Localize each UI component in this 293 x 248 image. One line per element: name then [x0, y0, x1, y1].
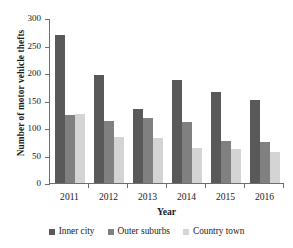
bar — [221, 141, 231, 183]
bar-group — [167, 18, 206, 183]
legend-item: Inner city — [49, 226, 95, 237]
bar — [114, 137, 124, 183]
bar — [55, 35, 65, 184]
x-tick-label: 2014 — [167, 191, 206, 203]
x-tick — [128, 184, 167, 189]
bar-group — [128, 18, 167, 183]
x-tick — [89, 184, 128, 189]
x-tick — [206, 184, 245, 189]
y-tick-label: 0 — [13, 178, 41, 189]
bar-chart: Number of motor vehicle thefts 300250200… — [0, 0, 293, 248]
x-axis-ticks — [50, 184, 284, 189]
bar — [260, 142, 270, 183]
x-axis-title: Year — [49, 206, 284, 217]
y-tick-label: 200 — [13, 68, 41, 79]
y-tick-label: 50 — [13, 151, 41, 162]
bar — [104, 121, 114, 183]
legend-swatch-icon — [108, 229, 114, 235]
bar — [65, 115, 75, 183]
y-tick-label: 150 — [13, 96, 41, 107]
bar-group — [206, 18, 245, 183]
x-tick-label: 2011 — [50, 191, 89, 203]
chart-legend: Inner cityOuter suburbsCountry town — [0, 226, 293, 237]
bar — [153, 138, 163, 183]
bar — [143, 118, 153, 183]
y-tick-label: 250 — [13, 41, 41, 52]
bar — [172, 80, 182, 183]
bar-group — [50, 18, 89, 183]
bar — [94, 75, 104, 183]
legend-label: Outer suburbs — [118, 226, 170, 237]
bar — [192, 148, 202, 183]
bar-group — [89, 18, 128, 183]
legend-item: Country town — [183, 226, 244, 237]
bar — [270, 152, 280, 183]
x-tick-label: 2016 — [245, 191, 284, 203]
bar — [182, 122, 192, 183]
legend-item: Outer suburbs — [108, 226, 170, 237]
legend-label: Country town — [193, 226, 244, 237]
x-tick-label: 2012 — [89, 191, 128, 203]
bar-group — [245, 18, 284, 183]
y-tick-label: 100 — [13, 123, 41, 134]
bar — [211, 92, 221, 183]
bar-groups — [50, 18, 284, 183]
legend-swatch-icon — [49, 229, 55, 235]
x-tick — [50, 184, 89, 189]
x-tick-label: 2015 — [206, 191, 245, 203]
legend-swatch-icon — [183, 229, 189, 235]
legend-label: Inner city — [59, 226, 95, 237]
bar — [250, 100, 260, 183]
y-tick-label: 300 — [13, 13, 41, 24]
x-tick — [245, 184, 284, 189]
x-axis-labels: 201120122013201420152016 — [50, 191, 284, 203]
bar — [75, 114, 85, 183]
bar — [133, 109, 143, 183]
bar — [231, 149, 241, 183]
x-tick-label: 2013 — [128, 191, 167, 203]
plot-area: 300250200150100500 201120122013201420152… — [49, 19, 284, 184]
x-tick — [167, 184, 206, 189]
